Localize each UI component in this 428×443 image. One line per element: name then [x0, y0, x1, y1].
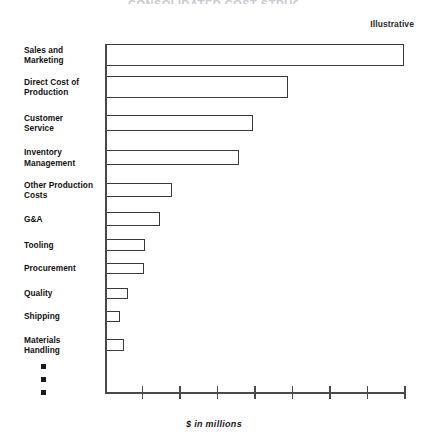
x-axis-tick	[142, 386, 144, 399]
category-label: Sales andMarketing	[24, 45, 110, 66]
bar	[106, 212, 160, 226]
category-label: InventoryManagement	[24, 147, 110, 168]
x-axis-tick	[329, 386, 331, 399]
bar	[106, 183, 172, 197]
x-axis-tick	[217, 386, 219, 399]
category-label: Direct Cost ofProduction	[24, 77, 110, 98]
bar	[106, 263, 144, 274]
x-axis-tick	[404, 386, 406, 399]
x-axis-title: $ in millions	[0, 419, 428, 429]
category-label: Quality	[24, 288, 110, 299]
category-label: MaterialsHandling	[24, 335, 110, 356]
horizontal-bar-chart: Sales andMarketingDirect Cost ofProducti…	[0, 0, 428, 443]
category-label: Shipping	[24, 311, 110, 322]
category-label: CustomerService	[24, 113, 110, 134]
bar	[106, 239, 145, 251]
bar	[106, 288, 128, 299]
y-axis-line	[105, 44, 107, 393]
x-axis-tick	[179, 386, 181, 399]
category-label: Other ProductionCosts	[24, 180, 110, 201]
x-axis-tick	[254, 386, 256, 399]
bar	[106, 311, 120, 322]
bar	[106, 76, 288, 98]
bar	[106, 115, 253, 131]
category-label: G&A	[24, 214, 110, 225]
continuation-bullet-icon	[41, 364, 46, 369]
category-label: Tooling	[24, 240, 110, 251]
bar	[106, 150, 239, 165]
continuation-bullet-icon	[41, 390, 46, 395]
category-label: Procurement	[24, 263, 110, 274]
continuation-bullet-icon	[41, 377, 46, 382]
x-axis-tick	[292, 386, 294, 399]
bar	[106, 339, 124, 351]
x-axis-tick	[367, 386, 369, 399]
bar	[106, 44, 404, 66]
